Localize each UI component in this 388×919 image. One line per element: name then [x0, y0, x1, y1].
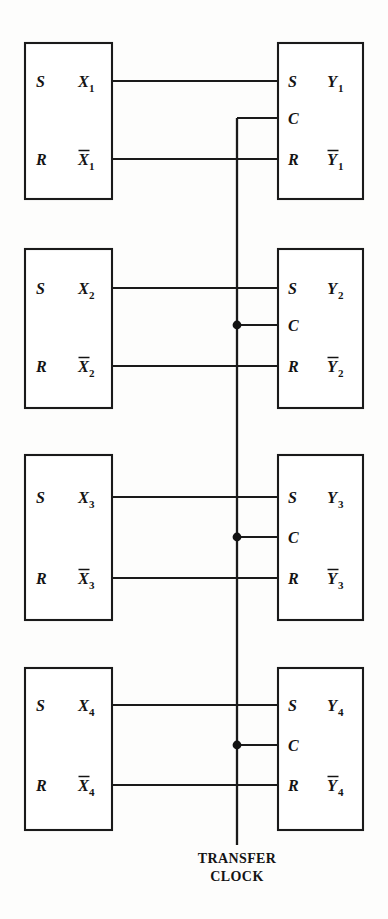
source-output-complement-2-subscript: 2: [89, 367, 95, 379]
destination-pin-r-3: R: [287, 570, 299, 587]
destination-output-complement-3-subscript: 3: [338, 579, 344, 591]
destination-output-complement-4-subscript: 4: [338, 786, 344, 798]
source-flipflop-box-2[interactable]: [25, 249, 112, 408]
destination-pin-s-3: S: [288, 489, 297, 506]
schematic-canvas: SRX1X1SCRY1Y1SRX2X2SCRY2Y2SRX3X3SCRY3Y3S…: [0, 0, 388, 919]
destination-output-complement-2-subscript: 2: [338, 367, 344, 379]
clock-junction-dot-4: [233, 741, 242, 750]
flip-flop-stage-3: SRX3X3SCRY3Y3: [25, 455, 363, 620]
flip-flop-stage-4: SRX4X4SCRY4Y4: [25, 668, 363, 830]
source-output-1-subscript: 1: [89, 82, 95, 94]
stages-layer: SRX1X1SCRY1Y1SRX2X2SCRY2Y2SRX3X3SCRY3Y3S…: [25, 43, 363, 830]
destination-pin-r-4: R: [287, 777, 299, 794]
source-output-2-subscript: 2: [89, 289, 95, 301]
source-flipflop-box-3[interactable]: [25, 455, 112, 620]
flip-flop-stage-1: SRX1X1SCRY1Y1: [25, 43, 363, 199]
transfer-clock-label-line-2: CLOCK: [210, 869, 263, 884]
source-pin-s-2: S: [36, 280, 45, 297]
destination-output-1-subscript: 1: [338, 82, 344, 94]
destination-pin-c-2: C: [288, 317, 299, 334]
destination-pin-c-1: C: [288, 110, 299, 127]
source-pin-r-3: R: [35, 570, 47, 587]
source-output-4-subscript: 4: [89, 706, 95, 718]
destination-output-3-subscript: 3: [338, 498, 344, 510]
source-pin-r-1: R: [35, 151, 47, 168]
clock-junction-dot-2: [233, 321, 242, 330]
destination-output-complement-1-subscript: 1: [338, 160, 344, 172]
source-pin-s-3: S: [36, 489, 45, 506]
source-pin-r-4: R: [35, 777, 47, 794]
destination-output-4-subscript: 4: [338, 706, 344, 718]
source-flipflop-box-4[interactable]: [25, 668, 112, 830]
destination-output-2-subscript: 2: [338, 289, 344, 301]
source-output-complement-1-subscript: 1: [89, 160, 95, 172]
source-output-3-subscript: 3: [89, 498, 95, 510]
source-output-complement-3-subscript: 3: [89, 579, 95, 591]
destination-pin-s-1: S: [288, 73, 297, 90]
destination-pin-c-4: C: [288, 737, 299, 754]
flip-flop-stage-2: SRX2X2SCRY2Y2: [25, 249, 363, 408]
clock-junction-dot-3: [233, 533, 242, 542]
destination-pin-r-2: R: [287, 358, 299, 375]
source-flipflop-box-1[interactable]: [25, 43, 112, 199]
flip-flop-transfer-diagram: SRX1X1SCRY1Y1SRX2X2SCRY2Y2SRX3X3SCRY3Y3S…: [0, 0, 388, 919]
source-pin-s-1: S: [36, 73, 45, 90]
source-pin-r-2: R: [35, 358, 47, 375]
source-output-complement-4-subscript: 4: [89, 786, 95, 798]
destination-pin-c-3: C: [288, 529, 299, 546]
clock-bus-layer: TRANSFERCLOCK: [198, 118, 277, 884]
destination-pin-s-2: S: [288, 280, 297, 297]
source-pin-s-4: S: [36, 697, 45, 714]
destination-pin-r-1: R: [287, 151, 299, 168]
destination-pin-s-4: S: [288, 697, 297, 714]
transfer-clock-label-line-1: TRANSFER: [198, 851, 277, 866]
